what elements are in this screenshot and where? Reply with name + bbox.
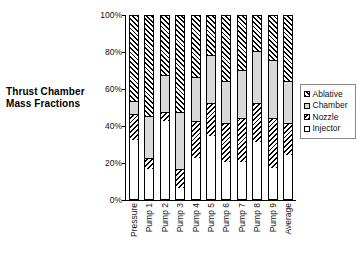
- bar-segment-ablative: [130, 15, 138, 101]
- y-axis-tick-label: 40%: [96, 122, 122, 131]
- bar-segment-ablative: [238, 15, 246, 70]
- bar-segment-injector: [192, 158, 200, 199]
- legend-label: Ablative: [313, 90, 343, 99]
- bar-slot: [126, 15, 141, 200]
- bar-segment-chamber: [253, 51, 261, 103]
- bar-segment-ablative: [161, 15, 169, 75]
- bar-segment-nozzle: [192, 121, 200, 158]
- chart-title-line-2: Mass Fractions: [6, 98, 108, 110]
- stacked-bar[interactable]: [221, 15, 231, 200]
- segment-divider: [269, 118, 277, 119]
- legend-label: Nozzle: [313, 113, 339, 122]
- stacked-bar[interactable]: [129, 15, 139, 200]
- bar-slot: [157, 15, 172, 200]
- bar-slot: [141, 15, 156, 200]
- segment-divider: [253, 103, 261, 104]
- chart-title: Thrust Chamber Mass Fractions: [6, 86, 108, 110]
- bar-segment-nozzle: [176, 169, 184, 188]
- legend-item[interactable]: Injector: [304, 123, 353, 134]
- bar-segment-ablative: [207, 15, 215, 55]
- bar-segment-ablative: [284, 15, 292, 81]
- bar-segment-nozzle: [161, 112, 169, 121]
- segment-divider: [176, 169, 184, 170]
- bar-segment-chamber: [192, 77, 200, 121]
- bar-segment-chamber: [176, 112, 184, 169]
- y-axis-tick-label: 20%: [96, 159, 122, 168]
- chart-page: Thrust Chamber Mass Fractions 0%20%40%60…: [0, 0, 359, 255]
- x-axis-tick-slot: Pump 5: [203, 201, 218, 255]
- segment-divider: [253, 51, 261, 52]
- legend-item[interactable]: Ablative: [304, 89, 353, 100]
- legend-label: Injector: [313, 124, 341, 133]
- bar-slot: [188, 15, 203, 200]
- stacked-bar[interactable]: [191, 15, 201, 200]
- bar-segment-ablative: [222, 15, 230, 81]
- bar-segment-nozzle: [269, 118, 277, 168]
- stacked-bar[interactable]: [175, 15, 185, 200]
- legend-item[interactable]: Nozzle: [304, 112, 353, 123]
- y-axis-tick-label: 0%: [96, 196, 122, 205]
- bar-segment-nozzle: [207, 103, 215, 136]
- segment-divider: [238, 70, 246, 71]
- bar-segment-injector: [238, 162, 246, 199]
- x-axis-tick-label: Pump 2: [160, 203, 169, 232]
- x-axis-tick-label: Pressure: [129, 203, 138, 237]
- bar-segment-nozzle: [222, 123, 230, 162]
- x-axis-tick-slot: Pump 8: [250, 201, 265, 255]
- bar-slot: [281, 15, 296, 200]
- y-axis-tick-labels: 0%20%40%60%80%100%: [96, 0, 122, 255]
- stacked-bar[interactable]: [206, 15, 216, 200]
- bar-segment-nozzle: [284, 123, 292, 154]
- bar-segment-chamber: [284, 81, 292, 124]
- bar-segment-chamber: [269, 60, 277, 117]
- bar-segment-nozzle: [145, 158, 153, 169]
- bar-segment-chamber: [145, 116, 153, 159]
- bar-segment-injector: [269, 168, 277, 199]
- bar-segment-chamber: [238, 70, 246, 118]
- x-axis-tick-slot: Pump 7: [234, 201, 249, 255]
- bar-segment-injector: [145, 169, 153, 199]
- bar-segment-chamber: [161, 75, 169, 112]
- legend-item[interactable]: Chamber: [304, 100, 353, 111]
- x-axis-tick-label: Pump 6: [222, 203, 231, 232]
- stacked-bar[interactable]: [252, 15, 262, 200]
- stacked-bar[interactable]: [160, 15, 170, 200]
- y-axis-tick-label: 60%: [96, 85, 122, 94]
- y-axis-tick-label: 100%: [96, 11, 122, 20]
- legend-swatch-icon: [304, 114, 310, 120]
- x-axis-tick-slot: Pump 2: [157, 201, 172, 255]
- segment-divider: [145, 158, 153, 159]
- bar-segment-chamber: [222, 81, 230, 124]
- legend-swatch-icon: [304, 126, 310, 132]
- bar-segment-ablative: [145, 15, 153, 116]
- chart-legend: AblativeChamberNozzleInjector: [300, 84, 356, 139]
- segment-divider: [130, 101, 138, 102]
- segment-divider: [145, 116, 153, 117]
- segment-divider: [207, 55, 215, 56]
- segment-divider: [176, 112, 184, 113]
- stacked-bar[interactable]: [283, 15, 293, 200]
- bar-segment-chamber: [130, 101, 138, 114]
- bar-slot: [219, 15, 234, 200]
- bar-segment-nozzle: [253, 103, 261, 142]
- legend-label: Chamber: [313, 101, 348, 110]
- segment-divider: [161, 75, 169, 76]
- stacked-bar[interactable]: [268, 15, 278, 200]
- segment-divider: [269, 60, 277, 61]
- bar-segment-injector: [253, 142, 261, 199]
- x-axis-tick-label: Pump 5: [206, 203, 215, 232]
- bar-segment-injector: [222, 162, 230, 199]
- bar-group: [126, 15, 296, 200]
- bar-segment-ablative: [192, 15, 200, 77]
- bar-segment-injector: [130, 140, 138, 199]
- stacked-bar[interactable]: [237, 15, 247, 200]
- x-axis-tick-label: Pump 9: [268, 203, 277, 232]
- x-axis-tick-slot: Pump 3: [172, 201, 187, 255]
- bar-segment-nozzle: [130, 114, 138, 140]
- bar-segment-injector: [284, 155, 292, 199]
- bar-segment-ablative: [269, 15, 277, 60]
- stacked-bar[interactable]: [144, 15, 154, 200]
- segment-divider: [207, 103, 215, 104]
- bar-segment-ablative: [253, 15, 261, 51]
- chart-title-line-1: Thrust Chamber: [6, 86, 108, 98]
